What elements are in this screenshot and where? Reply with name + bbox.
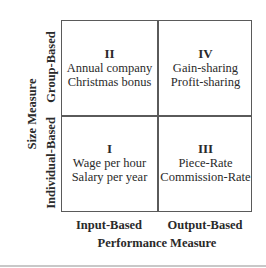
quadrant-line: Annual company [67, 61, 153, 75]
quadrant-line: Salary per year [72, 170, 148, 184]
quadrant-line: Commission-Rate [160, 170, 250, 184]
quadrant-numeral: II [104, 47, 114, 61]
quadrant-line: Wage per hour [73, 156, 146, 170]
x-axis-title: Performance Measure [98, 236, 217, 251]
y-axis-title: Size Measure [25, 79, 40, 150]
bottom-divider [0, 265, 266, 267]
x-label-output-based: Output-Based [167, 218, 242, 233]
quadrant-line: Profit-sharing [171, 75, 240, 89]
quadrant-grid: II Annual company Christmas bonus IV Gai… [61, 20, 252, 212]
quadrant-line: Piece-Rate [178, 156, 232, 170]
quadrant-iv: IV Gain-sharing Profit-sharing [158, 21, 253, 115]
quadrant-i: I Wage per hour Salary per year [62, 116, 157, 210]
quadrant-numeral: IV [198, 47, 212, 61]
quadrant-line: Gain-sharing [173, 61, 238, 75]
y-label-group-based: Group-Based [44, 31, 59, 102]
x-label-input-based: Input-Based [76, 218, 142, 233]
quadrant-line: Christmas bonus [68, 75, 152, 89]
quadrant-numeral: III [198, 142, 213, 156]
y-label-individual-based: Individual-Based [44, 117, 59, 209]
quadrant-iii: III Piece-Rate Commission-Rate [158, 116, 253, 210]
quadrant-ii: II Annual company Christmas bonus [62, 21, 157, 115]
quadrant-numeral: I [107, 142, 112, 156]
